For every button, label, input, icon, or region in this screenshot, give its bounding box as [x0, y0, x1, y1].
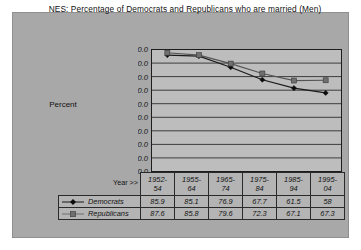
- plot-area: 90.0 80.0 70.0 60.0 50.0 40.0 30.0 20.0 …: [138, 36, 344, 176]
- value-cell: 79.6: [209, 208, 243, 220]
- data-point-square: [228, 61, 233, 66]
- category-cell: 1955- 64: [175, 173, 209, 196]
- chart-data-table: 1952- 54 1955- 64 1965- 74 1975- 84 1985…: [58, 172, 345, 220]
- table-corner: [59, 173, 141, 196]
- category-line-2: 74: [221, 184, 229, 193]
- category-line-1: 1985-: [284, 175, 303, 184]
- legend-diamond-marker-icon: [61, 198, 85, 205]
- category-line-2: 84: [255, 184, 263, 193]
- category-cell: 1965- 74: [209, 173, 243, 196]
- category-line-2: 54: [153, 184, 161, 193]
- value-cell: 72.3: [243, 208, 277, 220]
- line-chart-svg: 90.0 80.0 70.0 60.0 50.0 40.0 30.0 20.0 …: [138, 36, 344, 176]
- chart-title: NES: Percentage of Democrats and Republi…: [40, 4, 330, 15]
- y-tick: 40.0: [138, 113, 149, 122]
- category-line-1: 1965-: [216, 175, 235, 184]
- value-cell: 67.1: [277, 208, 311, 220]
- value-cell: 58: [311, 196, 345, 208]
- y-tick: 80.0: [138, 59, 149, 68]
- y-tick: 20.0: [138, 140, 149, 149]
- category-line-1: 1955-: [182, 175, 201, 184]
- value-cell: 85.8: [175, 208, 209, 220]
- y-tick: 90.0: [138, 45, 149, 54]
- table-row-republicans: Republicans 87.6 85.8 79.6 72.3 67.1 67.…: [59, 208, 345, 220]
- value-cell: 87.6: [141, 208, 175, 220]
- category-line-1: 1995-: [318, 175, 337, 184]
- value-cell: 67.3: [311, 208, 345, 220]
- data-point-square: [260, 71, 265, 76]
- category-line-1: 1975-: [250, 175, 269, 184]
- y-tick: 70.0: [138, 73, 149, 82]
- y-tick: 10.0: [138, 154, 149, 163]
- data-point-square: [197, 53, 202, 58]
- table-row-categories: 1952- 54 1955- 64 1965- 74 1975- 84 1985…: [59, 173, 345, 196]
- category-cell: 1985- 94: [277, 173, 311, 196]
- y-tick: 30.0: [138, 127, 149, 136]
- legend-item-democrats: Democrats: [59, 196, 141, 208]
- value-cell: 67.7: [243, 196, 277, 208]
- y-tick: 50.0: [138, 100, 149, 109]
- category-line-2: 64: [187, 184, 195, 193]
- category-cell: 1975- 84: [243, 173, 277, 196]
- category-line-2: 94: [289, 184, 297, 193]
- legend-item-republicans: Republicans: [59, 208, 141, 220]
- category-line-1: 1952-: [148, 175, 167, 184]
- y-axis-label: Percent: [28, 100, 98, 109]
- table-row-democrats: Democrats 85.9 85.1 76.9 67.7 61.5 58: [59, 196, 345, 208]
- value-cell: 76.9: [209, 196, 243, 208]
- category-line-2: 04: [323, 184, 331, 193]
- plot-frame: [152, 50, 342, 172]
- value-cell: 85.9: [141, 196, 175, 208]
- y-tick-labels: 90.0 80.0 70.0 60.0 50.0 40.0 30.0 20.0 …: [138, 45, 149, 176]
- data-point-square: [165, 50, 170, 55]
- chart-page: NES: Percentage of Democrats and Republi…: [0, 0, 361, 250]
- data-point-square: [292, 78, 297, 83]
- value-cell: 85.1: [175, 196, 209, 208]
- category-cell: 1952- 54: [141, 173, 175, 196]
- data-point-square: [323, 78, 328, 83]
- value-cell: 61.5: [277, 196, 311, 208]
- category-cell: 1995- 04: [311, 173, 345, 196]
- y-tick: 60.0: [138, 86, 149, 95]
- legend-square-marker-icon: [61, 210, 85, 217]
